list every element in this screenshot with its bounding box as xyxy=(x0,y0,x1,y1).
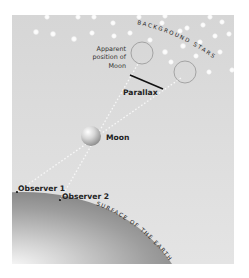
observer-2-label: Observer 2 xyxy=(62,192,109,201)
parallax-label: Parallax xyxy=(123,88,158,97)
apparent-position-label-line2: position of xyxy=(92,53,126,61)
apparent-position-label-line3: Moon xyxy=(109,62,126,70)
apparent-position-label-line1: Apparent xyxy=(97,45,127,53)
observer-2-dot xyxy=(59,199,61,201)
moon xyxy=(81,126,101,146)
observer-1-label: Observer 1 xyxy=(18,184,65,193)
parallax-diagram: Apparent position of Moon Parallax Moon … xyxy=(0,0,249,278)
moon-label: Moon xyxy=(106,133,129,142)
